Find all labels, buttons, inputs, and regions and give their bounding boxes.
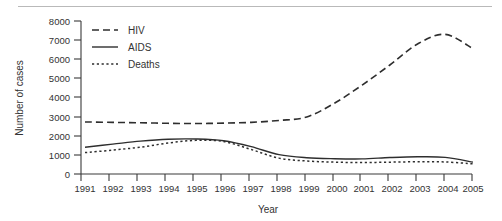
x-tick-label: 1999 xyxy=(298,183,319,194)
y-tick-label: 4000 xyxy=(49,92,70,103)
series-group xyxy=(85,34,473,164)
x-axis-tick-labels: 1991 1992 1993 1994 1995 1996 1997 1998 … xyxy=(74,183,483,194)
y-axis-ticks xyxy=(74,21,81,174)
y-tick-label: 7000 xyxy=(49,35,70,46)
x-tick-label: 1994 xyxy=(158,183,179,194)
x-tick-label: 1993 xyxy=(130,183,151,194)
y-axis-tick-labels: 8000 7000 6000 5000 4000 3000 2000 1000 … xyxy=(49,16,70,180)
y-axis-title: Number of cases xyxy=(14,60,25,136)
x-axis-title: Year xyxy=(258,204,279,215)
x-tick-label: 1992 xyxy=(102,183,123,194)
legend-label-deaths: Deaths xyxy=(128,59,160,70)
x-tick-label: 1997 xyxy=(242,183,263,194)
x-tick-label: 2004 xyxy=(437,183,458,194)
series-line-deaths xyxy=(85,140,473,164)
line-chart: 8000 7000 6000 5000 4000 3000 2000 1000 … xyxy=(0,0,502,221)
legend-label-aids: AIDS xyxy=(128,42,152,53)
x-tick-label: 1998 xyxy=(270,183,291,194)
legend-label-hiv: HIV xyxy=(128,25,145,36)
y-tick-label: 5000 xyxy=(49,73,70,84)
x-axis-ticks xyxy=(81,174,472,181)
x-tick-label: 2002 xyxy=(381,183,402,194)
y-tick-label: 3000 xyxy=(49,112,70,123)
x-tick-label: 2000 xyxy=(326,183,347,194)
x-tick-label: 1991 xyxy=(74,183,95,194)
y-tick-label: 8000 xyxy=(49,16,70,27)
y-tick-label: 0 xyxy=(65,169,70,180)
chart-figure: 8000 7000 6000 5000 4000 3000 2000 1000 … xyxy=(0,0,502,221)
chart-legend: HIV AIDS Deaths xyxy=(92,25,160,70)
x-tick-label: 2001 xyxy=(353,183,374,194)
y-tick-label: 2000 xyxy=(49,131,70,142)
x-tick-label: 1996 xyxy=(214,183,235,194)
y-tick-label: 1000 xyxy=(49,150,70,161)
x-tick-label: 1995 xyxy=(186,183,207,194)
x-tick-label: 2005 xyxy=(462,183,483,194)
y-tick-label: 6000 xyxy=(49,54,70,65)
x-tick-label: 2003 xyxy=(409,183,430,194)
